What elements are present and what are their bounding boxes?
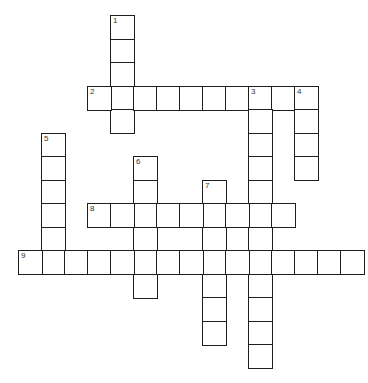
clue-number: 6 xyxy=(136,158,140,166)
crossword-cell[interactable]: 1 xyxy=(110,15,135,40)
crossword-cell[interactable] xyxy=(64,250,89,275)
crossword-cell[interactable] xyxy=(202,274,227,299)
crossword-cell[interactable] xyxy=(41,250,66,275)
crossword-cell[interactable] xyxy=(248,274,273,299)
crossword-cell[interactable] xyxy=(294,156,319,181)
crossword-cell[interactable] xyxy=(271,86,296,111)
crossword-cell[interactable] xyxy=(225,203,250,228)
crossword-cell[interactable] xyxy=(202,86,227,111)
crossword-cell[interactable] xyxy=(271,203,296,228)
crossword-cell[interactable] xyxy=(133,86,158,111)
crossword-cell[interactable] xyxy=(340,250,365,275)
crossword-cell[interactable] xyxy=(248,133,273,158)
crossword-cell[interactable] xyxy=(110,86,135,111)
crossword-cell[interactable] xyxy=(202,227,227,252)
crossword-cell[interactable] xyxy=(41,227,66,252)
clue-number: 1 xyxy=(113,17,117,25)
crossword-cell[interactable] xyxy=(179,86,204,111)
crossword-cell[interactable] xyxy=(179,203,204,228)
crossword-cell[interactable] xyxy=(202,250,227,275)
crossword-cell[interactable]: 2 xyxy=(87,86,112,111)
crossword-cell[interactable]: 9 xyxy=(18,250,43,275)
crossword-cell[interactable]: 6 xyxy=(133,156,158,181)
crossword-cell[interactable] xyxy=(248,203,273,228)
crossword-cell[interactable]: 5 xyxy=(41,133,66,158)
crossword-cell[interactable] xyxy=(294,109,319,134)
crossword-cell[interactable] xyxy=(271,250,296,275)
crossword-cell[interactable] xyxy=(202,297,227,322)
crossword-cell[interactable]: 4 xyxy=(294,86,319,111)
clue-number: 5 xyxy=(44,135,48,143)
crossword-cell[interactable] xyxy=(133,274,158,299)
crossword-cell[interactable] xyxy=(248,321,273,346)
crossword-cell[interactable] xyxy=(133,203,158,228)
crossword-cell[interactable] xyxy=(110,203,135,228)
clue-number: 8 xyxy=(90,205,94,213)
crossword-cell[interactable] xyxy=(294,250,319,275)
crossword-cell[interactable] xyxy=(110,62,135,87)
crossword-cell[interactable] xyxy=(133,227,158,252)
crossword-cell[interactable] xyxy=(248,156,273,181)
crossword-cell[interactable] xyxy=(248,297,273,322)
crossword-cell[interactable] xyxy=(41,180,66,205)
crossword-cell[interactable] xyxy=(248,227,273,252)
crossword-cell[interactable] xyxy=(41,156,66,181)
crossword-cell[interactable] xyxy=(156,250,181,275)
clue-number: 9 xyxy=(21,252,25,260)
crossword-cell[interactable] xyxy=(110,109,135,134)
crossword-cell[interactable]: 3 xyxy=(248,86,273,111)
crossword-cell[interactable] xyxy=(248,109,273,134)
crossword-cell[interactable] xyxy=(294,133,319,158)
crossword-cell[interactable] xyxy=(156,86,181,111)
crossword-cell[interactable] xyxy=(110,39,135,64)
crossword-cell[interactable] xyxy=(133,180,158,205)
crossword-cell[interactable] xyxy=(41,203,66,228)
crossword-cell[interactable] xyxy=(225,86,250,111)
crossword-cell[interactable] xyxy=(248,180,273,205)
crossword-cell[interactable] xyxy=(156,203,181,228)
crossword-cell[interactable]: 7 xyxy=(202,180,227,205)
crossword-cell[interactable] xyxy=(110,250,135,275)
crossword-cell[interactable]: 8 xyxy=(87,203,112,228)
crossword-cell[interactable] xyxy=(225,250,250,275)
crossword-cell[interactable] xyxy=(248,344,273,369)
clue-number: 2 xyxy=(90,88,94,96)
crossword-cell[interactable] xyxy=(248,250,273,275)
crossword-cell[interactable] xyxy=(87,250,112,275)
crossword-cell[interactable] xyxy=(133,250,158,275)
crossword-cell[interactable] xyxy=(202,203,227,228)
crossword-cell[interactable] xyxy=(317,250,342,275)
crossword-cell[interactable] xyxy=(179,250,204,275)
clue-number: 7 xyxy=(205,182,209,190)
crossword-grid: 123456789 xyxy=(0,0,368,383)
clue-number: 3 xyxy=(251,88,255,96)
clue-number: 4 xyxy=(297,88,301,96)
crossword-cell[interactable] xyxy=(202,321,227,346)
